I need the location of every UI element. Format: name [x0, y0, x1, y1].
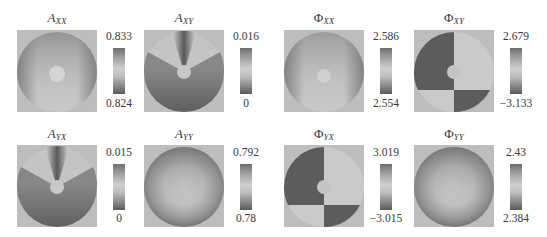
- colorbar-pyx: [380, 164, 392, 210]
- colorbar-min-pyx: −3.015: [361, 212, 411, 224]
- heatmap-ayy: [144, 145, 224, 227]
- colorbar-pxx: [380, 48, 392, 94]
- heatmap-axx: [17, 30, 97, 112]
- colorbar-max-pyy: 2.43: [491, 146, 541, 158]
- heatmap-ayx: [17, 145, 97, 227]
- colorbar-max-pxy: 2.679: [491, 30, 541, 42]
- heatmap-pyy: [414, 145, 494, 227]
- colorbar-min-ayx: 0: [94, 212, 144, 224]
- colorbar-max-ayy: 0.792: [221, 146, 271, 158]
- title-ayy: AYY: [144, 126, 224, 142]
- title-pxx: ΦXX: [284, 10, 364, 26]
- title-pxy: ΦXY: [414, 10, 494, 26]
- colorbar-min-pxy: −3.133: [491, 97, 541, 109]
- colorbar-min-pxx: 2.554: [361, 97, 411, 109]
- heatmap-pxx: [284, 30, 364, 112]
- colorbar-axy: [240, 48, 252, 94]
- colorbar-max-axy: 0.016: [221, 30, 271, 42]
- title-ayx: AYX: [17, 126, 97, 142]
- colorbar-pxy: [510, 48, 522, 94]
- colorbar-max-axx: 0.833: [94, 30, 144, 42]
- colorbar-pyy: [510, 164, 522, 210]
- colorbar-min-pyy: 2.384: [491, 212, 541, 224]
- title-axx: AXX: [17, 10, 97, 26]
- colorbar-max-pyx: 3.019: [361, 146, 411, 158]
- colorbar-max-pxx: 2.586: [361, 30, 411, 42]
- colorbar-max-ayx: 0.015: [94, 146, 144, 158]
- colorbar-ayy: [240, 164, 252, 210]
- colorbar-ayx: [113, 164, 125, 210]
- heatmap-axy: [144, 30, 224, 112]
- title-pyx: ΦYX: [284, 126, 364, 142]
- title-pyy: ΦYY: [414, 126, 494, 142]
- title-axy: AXY: [144, 10, 224, 26]
- heatmap-pxy: [414, 30, 494, 112]
- colorbar-min-axx: 0.824: [94, 97, 144, 109]
- heatmap-pyx: [284, 145, 364, 227]
- colorbar-axx: [113, 48, 125, 94]
- colorbar-min-axy: 0: [221, 97, 271, 109]
- colorbar-min-ayy: 0.78: [221, 212, 271, 224]
